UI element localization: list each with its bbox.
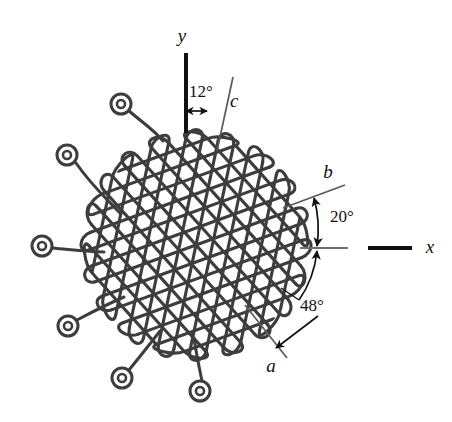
axis-y-label: y [176, 25, 187, 46]
terminal-node [111, 94, 131, 114]
filament-run [137, 156, 278, 313]
fiber-axis-a-label: a [266, 355, 276, 376]
angle-dimension-b: 20° [314, 198, 354, 246]
axis-x: x [300, 236, 435, 257]
terminal-node [112, 368, 132, 388]
terminal-node [190, 381, 210, 401]
terminal-node [58, 316, 78, 336]
angle-c-value: 12° [189, 82, 213, 101]
axis-x-label: x [425, 236, 435, 257]
angle-dimension-c: 12° [186, 82, 213, 111]
angle-a-value: 48° [300, 296, 324, 315]
angle-b-value: 20° [330, 207, 354, 226]
figure-canvas: y x c 12° b 20° a [0, 0, 452, 422]
triaxial-weave-diagram: y x c 12° b 20° a [0, 0, 452, 422]
fiber-axis-b-label: b [323, 161, 333, 182]
axis-y: y [176, 25, 187, 133]
woven-fabric [89, 138, 303, 351]
terminal-node [57, 145, 77, 165]
terminal-node [32, 236, 52, 256]
filament-run [114, 177, 255, 334]
fiber-axis-c-label: c [230, 90, 239, 111]
